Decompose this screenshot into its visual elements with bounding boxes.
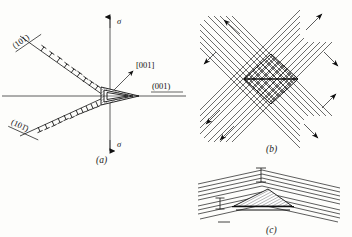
dislocation-group-lower — [35, 101, 100, 133]
twin-lamella-nucleus — [101, 87, 139, 105]
plane-label-right-group: (001) — [151, 81, 183, 92]
direction-label-001: [001] — [136, 60, 155, 70]
slip-line-upper — [20, 36, 103, 95]
direction-arrow-001 — [114, 71, 133, 90]
shear-arrow-8 — [304, 124, 318, 138]
panel-c: (c) — [190, 158, 352, 237]
figure-root: σ σ — [0, 0, 352, 237]
plane-label-right: (001) — [152, 81, 171, 91]
stress-label-bottom: σ — [117, 139, 122, 149]
dislocation-group-upper — [39, 45, 101, 92]
stress-label-top: σ — [117, 16, 122, 26]
panel-a-caption: (a) — [96, 155, 107, 166]
shear-arrow-5 — [206, 110, 220, 124]
panel-b: (b) — [190, 0, 352, 158]
panel-c-caption: (c) — [266, 225, 277, 236]
panel-a: σ σ — [0, 0, 190, 170]
panel-b-caption: (b) — [266, 144, 277, 155]
shear-arrow-4 — [324, 52, 338, 66]
shear-arrow-2 — [306, 14, 322, 30]
twin-wedge — [232, 189, 294, 210]
tee-marker-left — [216, 198, 225, 209]
plane-label-lower-left: (101̄) — [10, 117, 31, 134]
plane-label-upper-left: (101) — [10, 32, 31, 51]
slip-line-lower — [20, 98, 103, 136]
shear-arrow-6 — [322, 94, 336, 108]
